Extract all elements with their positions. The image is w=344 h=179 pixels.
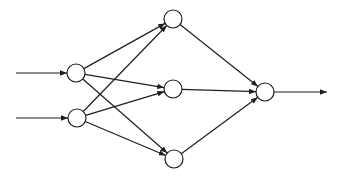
- node-input-1: [67, 64, 85, 82]
- edge-input-1-to-hidden-1: [84, 23, 165, 68]
- edge-input-2-to-hidden-2: [86, 92, 165, 116]
- edge-hidden-3-to-output-1: [181, 97, 258, 153]
- neural-network-diagram: [0, 0, 344, 179]
- edge-hidden-1-to-output-1: [180, 25, 258, 87]
- node-hidden-1: [164, 10, 182, 28]
- network-svg: [0, 0, 344, 179]
- edge-input-1-to-hidden-3: [83, 79, 167, 153]
- node-input-2: [68, 109, 86, 127]
- node-hidden-3: [165, 150, 183, 168]
- edge-input-1-to-hidden-2: [85, 74, 164, 87]
- edge-input-2-to-hidden-3: [85, 122, 165, 156]
- node-output-1: [256, 83, 274, 101]
- edge-hidden-2-to-output-1: [182, 89, 256, 91]
- node-hidden-2: [164, 80, 182, 98]
- edge-input-2-to-hidden-1: [83, 25, 166, 111]
